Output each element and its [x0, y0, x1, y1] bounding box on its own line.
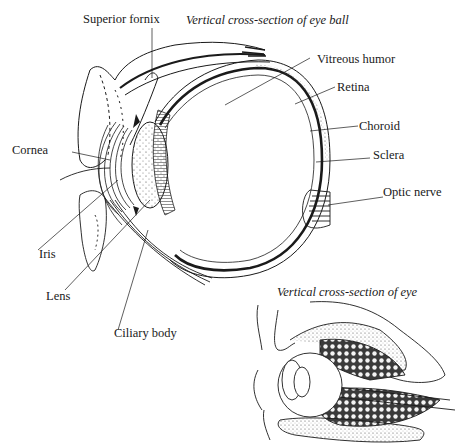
label-retina: Retina	[337, 80, 370, 94]
label-iris: Iris	[39, 247, 56, 261]
inset-eye-illustration	[254, 302, 455, 442]
label-optic-nerve: Optic nerve	[383, 185, 442, 199]
main-figure-title: Vertical cross-section of eye ball	[186, 13, 349, 27]
eyeball-layers	[155, 60, 330, 278]
inset-figure-title: Vertical cross-section of eye	[277, 285, 417, 299]
label-ciliary-body: Ciliary body	[114, 326, 177, 340]
label-vitreous-humor: Vitreous humor	[317, 52, 395, 66]
iris-cornea-lines	[98, 122, 134, 225]
label-lens: Lens	[46, 289, 70, 303]
main-eyeball-illustration	[0, 0, 476, 445]
label-choroid: Choroid	[359, 119, 400, 133]
label-cornea: Cornea	[12, 143, 48, 157]
optic-nerve	[303, 190, 330, 228]
lens-shape	[132, 122, 168, 208]
label-sclera: Sclera	[373, 148, 404, 162]
label-superior-fornix: Superior fornix	[83, 12, 160, 26]
eye-anatomy-diagram: Vertical cross-section of eye ball Verti…	[0, 0, 476, 445]
